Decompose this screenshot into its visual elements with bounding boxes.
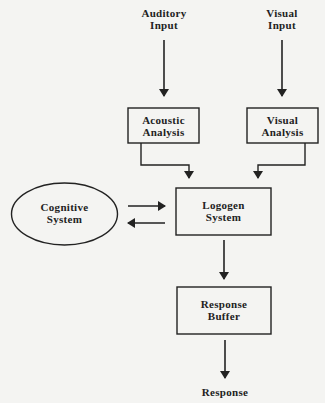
acoustic-analysis-line2: Analysis: [128, 126, 199, 138]
response-line1: Response: [180, 386, 270, 398]
visual-input-label: Visual Input: [247, 7, 317, 31]
arrow-acoustic-to-logogen: [141, 143, 189, 178]
acoustic-analysis-line1: Acoustic: [128, 114, 199, 126]
logogen-system-line1: Logogen: [176, 199, 271, 211]
response-buffer-label: Response Buffer: [177, 298, 271, 322]
logogen-system-label: Logogen System: [176, 199, 271, 223]
acoustic-analysis-label: Acoustic Analysis: [128, 114, 199, 138]
visual-analysis-line2: Analysis: [247, 126, 318, 138]
auditory-input-line1: Auditory: [129, 7, 199, 19]
response-buffer-line1: Response: [177, 298, 271, 310]
response-label: Response: [180, 386, 270, 398]
cognitive-system-label: Cognitive System: [12, 201, 117, 225]
visual-analysis-label: Visual Analysis: [247, 114, 318, 138]
auditory-input-line2: Input: [129, 19, 199, 31]
logogen-system-line2: System: [176, 211, 271, 223]
cognitive-system-line2: System: [12, 213, 117, 225]
visual-input-line1: Visual: [247, 7, 317, 19]
cognitive-system-line1: Cognitive: [12, 201, 117, 213]
visual-analysis-line1: Visual: [247, 114, 318, 126]
response-buffer-line2: Buffer: [177, 310, 271, 322]
arrow-visual-to-logogen: [258, 143, 305, 178]
auditory-input-label: Auditory Input: [129, 7, 199, 31]
visual-input-line2: Input: [247, 19, 317, 31]
